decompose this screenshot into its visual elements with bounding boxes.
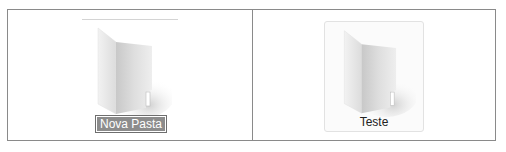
rename-selected-text[interactable]: Nova Pasta [97, 117, 165, 131]
rename-input[interactable]: Nova Pasta [95, 115, 167, 133]
panel-divider [252, 9, 253, 141]
folder-item-nova-pasta[interactable]: Nova Pasta [80, 14, 180, 136]
folder-item-teste[interactable]: Teste [324, 21, 424, 132]
folder-icon [88, 22, 172, 118]
folder-label: Teste [325, 115, 423, 129]
header-line [82, 19, 178, 20]
folder-icon [334, 25, 416, 117]
